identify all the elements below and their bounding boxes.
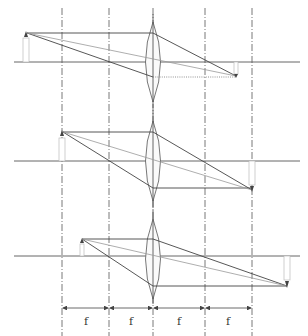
- focal-label-3: f: [177, 315, 182, 328]
- refracted-ray: [153, 239, 287, 286]
- case-object-between-f-2f: [14, 210, 300, 304]
- object-candle: [59, 138, 65, 161]
- lens-diagram: f f f f: [0, 0, 308, 336]
- object-candle: [80, 244, 84, 256]
- object-flame-icon: [24, 31, 28, 37]
- focal-label-4: f: [226, 315, 231, 328]
- focal-length-dimensions: f f f f: [63, 308, 251, 328]
- center-ray: [82, 239, 287, 286]
- case-object-beyond-2f: [14, 14, 300, 108]
- refracted-ray: [153, 33, 236, 76]
- image-candle: [234, 62, 238, 74]
- focal-ray: [63, 132, 153, 188]
- image-flame-icon: [285, 281, 289, 288]
- image-candle: [249, 161, 255, 185]
- object-candle: [23, 38, 29, 62]
- focal-label-1: f: [84, 315, 89, 328]
- focal-ray: [82, 239, 153, 286]
- object-flame-icon: [60, 130, 64, 136]
- image-candle: [284, 256, 290, 280]
- focal-label-2: f: [129, 315, 134, 328]
- diagram-canvas: f f f f: [0, 0, 308, 336]
- case-object-at-2f: [14, 110, 300, 208]
